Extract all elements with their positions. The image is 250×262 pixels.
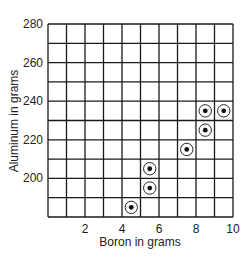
data-point-circled-dot-icon — [125, 201, 137, 213]
x-tick-label: 2 — [82, 222, 89, 236]
y-axis-label: Aluminum in grams — [7, 70, 21, 173]
data-point-circled-dot-icon — [181, 143, 193, 155]
y-tick-label: 200 — [23, 171, 43, 185]
x-tick-label: 8 — [193, 222, 200, 236]
x-axis-ticks: 246810 — [82, 222, 240, 236]
data-point-circled-dot-icon — [144, 163, 156, 175]
y-tick-label: 220 — [23, 133, 43, 147]
chart-grid — [48, 24, 233, 217]
data-point-circled-dot-icon — [218, 105, 230, 117]
scatter-chart: 200220240260280 246810 Boron in grams Al… — [0, 0, 250, 262]
data-point-circled-dot-icon — [199, 105, 211, 117]
x-axis-label: Boron in grams — [99, 235, 180, 249]
x-tick-label: 10 — [226, 222, 240, 236]
y-tick-label: 260 — [23, 56, 43, 70]
y-tick-label: 280 — [23, 17, 43, 31]
data-point-circled-dot-icon — [144, 182, 156, 194]
y-tick-label: 240 — [23, 94, 43, 108]
x-tick-label: 4 — [119, 222, 126, 236]
x-tick-label: 6 — [156, 222, 163, 236]
data-point-circled-dot-icon — [199, 124, 211, 136]
y-axis-ticks: 200220240260280 — [23, 17, 43, 185]
